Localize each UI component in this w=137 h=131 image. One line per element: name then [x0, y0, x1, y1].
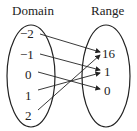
range-value: 0	[104, 83, 111, 98]
domain-value: 1	[25, 88, 32, 103]
arrow-0-to-0	[38, 72, 100, 89]
domain-title: Domain	[12, 3, 54, 18]
arrow-neg1-to-1	[40, 54, 100, 70]
domain-value: −2	[20, 26, 34, 41]
domain-value: −1	[20, 47, 34, 62]
domain-value: 0	[25, 67, 32, 82]
domain-value: 2	[25, 108, 32, 123]
range-title: Range	[91, 3, 124, 18]
mapping-diagram: Domain Range −2 −1 0 1 2 16 1 0	[0, 0, 137, 131]
range-value: 1	[104, 64, 111, 79]
arrow-2-to-16	[38, 55, 100, 110]
range-value: 16	[102, 46, 116, 61]
arrow-1-to-1	[38, 73, 100, 90]
